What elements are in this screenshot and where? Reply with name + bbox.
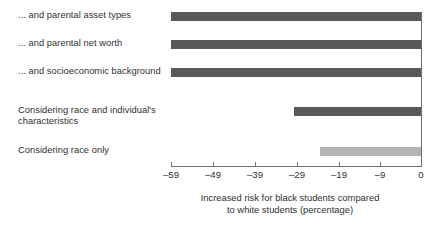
x-axis-tick <box>421 162 422 167</box>
x-axis-tick-label: –49 <box>193 169 233 181</box>
x-axis-tick-label: –9 <box>360 169 400 181</box>
bar-parental-asset-types <box>171 12 421 21</box>
x-axis-tick <box>171 162 172 167</box>
category-label-line: Considering race and <box>18 105 107 115</box>
x-axis-tick-label: –39 <box>235 169 275 181</box>
bar-socioeconomic-background <box>171 68 421 77</box>
category-label-line: ... and parental net worth <box>18 38 122 48</box>
bar-race-only <box>320 147 421 156</box>
category-label-line: ... and socioeconomic <box>18 66 109 76</box>
x-axis-caption-line: Increased risk for black students compar… <box>150 192 430 204</box>
category-label-line: background <box>112 66 161 76</box>
x-axis-caption: Increased risk for black students compar… <box>150 192 430 217</box>
plot-area: ... and parental asset types ... and par… <box>0 0 440 233</box>
category-label-4: Considering race only <box>18 145 168 156</box>
x-axis-tick-label: 0 <box>401 169 440 181</box>
x-axis-tick <box>213 162 214 167</box>
x-axis-tick <box>380 162 381 167</box>
x-axis-caption-line: to white students (percentage) <box>150 204 430 216</box>
x-axis-tick-label: –19 <box>319 169 359 181</box>
category-label-0: ... and parental asset types <box>18 10 168 21</box>
category-label-2: ... and socioeconomic background <box>18 66 168 77</box>
x-axis-tick <box>339 162 340 167</box>
category-label-1: ... and parental net worth <box>18 38 168 49</box>
zero-axis-line <box>421 12 422 167</box>
bar-chart: ... and parental asset types ... and par… <box>0 0 440 233</box>
category-label-line: Considering race only <box>18 145 109 155</box>
x-axis-tick-label: –59 <box>151 169 191 181</box>
bar-race-and-individual-characteristics <box>294 107 421 116</box>
x-axis-tick-label: –29 <box>277 169 317 181</box>
category-label-3: Considering race and individual's charac… <box>18 105 168 128</box>
x-axis-tick <box>297 162 298 167</box>
x-axis-tick <box>255 162 256 167</box>
category-label-line: ... and parental asset types <box>18 10 131 20</box>
bar-parental-net-worth <box>171 40 421 49</box>
